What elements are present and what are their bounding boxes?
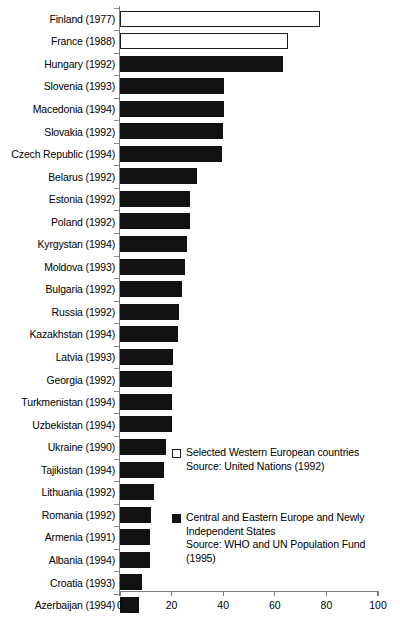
x-axis-tick-label: 20 <box>166 599 178 611</box>
x-axis-tick-label: 80 <box>321 599 333 611</box>
legend-text: Central and Eastern Europe and NewlyInde… <box>186 511 365 565</box>
bar <box>120 462 164 478</box>
y-axis-line <box>119 6 120 592</box>
category-label: Latvia (1993) <box>56 351 115 363</box>
bar <box>120 259 185 275</box>
bar <box>120 371 172 387</box>
bar <box>120 529 150 545</box>
category-label: Finland (1977) <box>49 13 115 25</box>
category-label: Ukraine (1990) <box>48 441 115 453</box>
legend-text-line: Source: United Nations (1992) <box>186 460 359 474</box>
legend-text-line: Source: WHO and UN Population Fund <box>186 538 365 552</box>
x-axis-tick-label: 0 <box>117 599 123 611</box>
bar-chart: Finland (1977)France (1988)Hungary (1992… <box>0 0 400 623</box>
bar <box>120 236 187 252</box>
bar <box>120 56 283 72</box>
x-axis-tick <box>223 591 224 596</box>
category-label: Russia (1992) <box>52 306 115 318</box>
bar <box>120 394 172 410</box>
bar <box>120 304 179 320</box>
bar <box>120 101 224 117</box>
legend-entry-cee: Central and Eastern Europe and NewlyInde… <box>172 511 365 565</box>
bar <box>120 552 150 568</box>
x-axis-tick-label: 100 <box>369 599 387 611</box>
category-label: Estonia (1992) <box>49 193 115 205</box>
legend-swatch-icon <box>172 449 181 458</box>
category-label: France (1988) <box>51 35 115 47</box>
bar <box>120 191 190 207</box>
bar-row: Azerbaijan (1994) <box>0 594 400 617</box>
bar <box>120 213 190 229</box>
bar-row: Macedonia (1994) <box>0 98 400 121</box>
bar-rows-container: Finland (1977)France (1988)Hungary (1992… <box>0 0 400 590</box>
bar <box>120 349 173 365</box>
bar <box>120 416 172 432</box>
category-label: Tajikistan (1994) <box>41 464 115 476</box>
category-label: Croatia (1993) <box>50 577 115 589</box>
category-label: Hungary (1992) <box>44 58 115 70</box>
bar <box>120 484 154 500</box>
bar-row: Georgia (1992) <box>0 368 400 391</box>
category-label: Bulgaria (1992) <box>45 283 115 295</box>
category-label: Kazakhstan (1994) <box>29 328 115 340</box>
x-axis-tick <box>326 591 327 596</box>
category-label: Poland (1992) <box>51 216 115 228</box>
bar-row: Belarus (1992) <box>0 165 400 188</box>
bar <box>120 146 222 162</box>
bar-row: Moldova (1993) <box>0 256 400 279</box>
bar-row: Bulgaria (1992) <box>0 278 400 301</box>
x-axis-line <box>119 591 379 592</box>
bar-row: Slovakia (1992) <box>0 120 400 143</box>
legend-text-line: (1995) <box>186 552 365 566</box>
category-label: Romania (1992) <box>42 509 115 521</box>
legend-entry-west: Selected Western European countriesSourc… <box>172 446 359 473</box>
bar-row: Uzbekistan (1994) <box>0 413 400 436</box>
x-axis-tick-label: 60 <box>269 599 281 611</box>
x-axis-tick <box>274 591 275 596</box>
legend-text: Selected Western European countriesSourc… <box>186 446 359 473</box>
bar-row: Kazakhstan (1994) <box>0 323 400 346</box>
x-axis-tick <box>119 591 120 596</box>
category-label: Belarus (1992) <box>48 171 115 183</box>
bar <box>120 439 166 455</box>
legend-swatch-icon <box>172 514 181 523</box>
bar <box>120 33 288 49</box>
category-label: Macedonia (1994) <box>33 103 115 115</box>
bar-row: Estonia (1992) <box>0 188 400 211</box>
legend-text-line: Central and Eastern Europe and Newly <box>186 511 365 525</box>
bar-row: Poland (1992) <box>0 210 400 233</box>
category-label: Moldova (1993) <box>44 261 115 273</box>
category-label: Lithuania (1992) <box>42 486 116 498</box>
category-label: Turkmenistan (1994) <box>21 396 115 408</box>
x-axis-tick <box>377 591 378 596</box>
bar-row: Czech Republic (1994) <box>0 143 400 166</box>
bar-row: Kyrgystan (1994) <box>0 233 400 256</box>
x-axis-tick <box>171 591 172 596</box>
category-label: Georgia (1992) <box>46 374 115 386</box>
bar <box>120 574 142 590</box>
x-axis-tick-label: 40 <box>217 599 229 611</box>
bar <box>120 507 151 523</box>
bar-row: Turkmenistan (1994) <box>0 391 400 414</box>
category-label: Czech Republic (1994) <box>11 148 115 160</box>
bar <box>120 168 197 184</box>
legend-text-line: Selected Western European countries <box>186 446 359 460</box>
category-label: Azerbaijan (1994) <box>35 599 115 611</box>
bar-row: Slovenia (1993) <box>0 75 400 98</box>
bar-row: Finland (1977) <box>0 8 400 31</box>
category-label: Kyrgystan (1994) <box>37 238 115 250</box>
bar <box>120 123 223 139</box>
bar-row: Lithuania (1992) <box>0 481 400 504</box>
bar-row: Hungary (1992) <box>0 53 400 76</box>
category-label: Slovakia (1992) <box>44 126 115 138</box>
category-label: Armenia (1991) <box>45 531 115 543</box>
bar-row: France (1988) <box>0 30 400 53</box>
bar <box>120 78 224 94</box>
bar <box>120 326 178 342</box>
category-label: Albania (1994) <box>49 554 115 566</box>
bar-row: Russia (1992) <box>0 301 400 324</box>
legend-text-line: Independent States <box>186 525 365 539</box>
bar <box>120 281 182 297</box>
category-label: Slovenia (1993) <box>44 80 115 92</box>
category-label: Uzbekistan (1994) <box>32 419 115 431</box>
